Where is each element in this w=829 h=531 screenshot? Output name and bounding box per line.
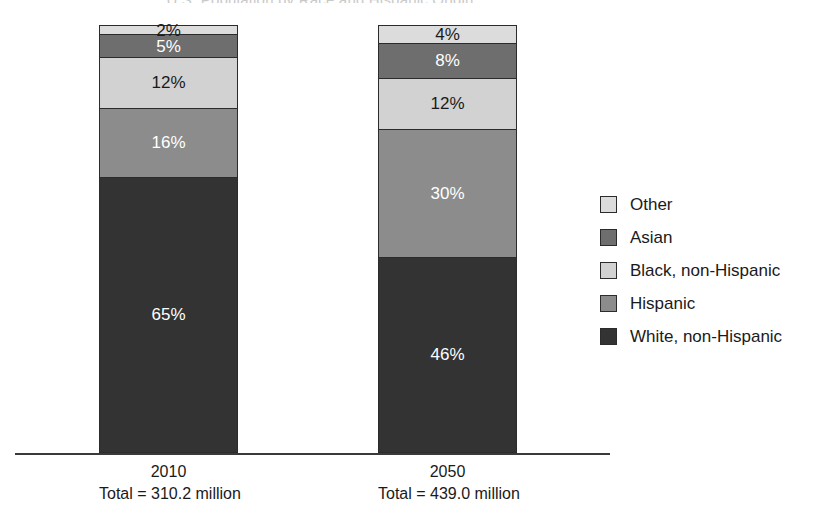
category-label-2010: 2010 Total = 310.2 million [99,461,238,505]
category-label-2050: 2050 Total = 439.0 million [378,461,517,505]
chart-legend: OtherAsianBlack, non-HispanicHispanicWhi… [600,188,782,353]
legend-item-white-non-hispanic[interactable]: White, non-Hispanic [600,320,782,353]
legend-item-hispanic[interactable]: Hispanic [600,287,782,320]
bar-segment: 4% [379,26,516,44]
legend-swatch-icon [600,328,617,345]
segment-value-label: 30% [430,185,464,202]
legend-swatch-icon [600,196,617,213]
legend-swatch-icon [600,262,617,279]
legend-item-label: White, non-Hispanic [630,328,782,345]
stacked-bar-2050: 4%8%12%30%46% [378,25,517,453]
legend-item-black-non-hispanic[interactable]: Black, non-Hispanic [600,254,782,287]
segment-value-label: 46% [430,346,464,363]
chart-plot-area: 2%5%12%16%65% 4%8%12%30%46% 2010 Total =… [0,0,640,531]
bar-segment: 46% [379,258,516,452]
category-year-2050: 2050 [378,461,517,483]
segment-value-label: 16% [151,134,185,151]
bar-segment: 12% [379,79,516,131]
category-total-2050: Total = 439.0 million [378,483,517,505]
segment-value-label: 8% [435,52,460,69]
legend-swatch-icon [600,229,617,246]
bar-segment: 30% [379,130,516,258]
legend-item-asian[interactable]: Asian [600,221,782,254]
segment-value-label: 4% [435,26,460,43]
bar-segment: 12% [100,58,237,110]
stacked-bar-2010: 2%5%12%16%65% [99,25,238,453]
bar-segment: 2% [100,26,237,35]
segment-value-label: 12% [151,74,185,91]
segment-value-label: 5% [156,37,181,54]
segment-value-label: 12% [430,95,464,112]
legend-swatch-icon [600,295,617,312]
bar-segment: 65% [100,178,237,452]
category-year-2010: 2010 [99,461,238,483]
legend-item-label: Other [630,196,673,213]
segment-value-label: 65% [151,306,185,323]
legend-item-label: Asian [630,229,673,246]
legend-item-label: Black, non-Hispanic [630,262,780,279]
x-axis-line [15,453,610,455]
bar-segment: 5% [100,35,237,57]
bar-segment: 8% [379,44,516,79]
legend-item-other[interactable]: Other [600,188,782,221]
legend-item-label: Hispanic [630,295,695,312]
category-total-2010: Total = 310.2 million [99,483,238,505]
bar-segment: 16% [100,109,237,178]
